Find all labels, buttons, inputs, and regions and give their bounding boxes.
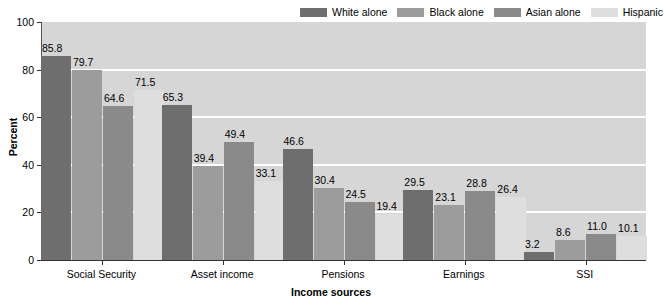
bar	[103, 106, 133, 260]
x-axis-tick-mark	[344, 261, 345, 265]
legend-item: Black alone	[397, 6, 483, 18]
x-axis-category-label: Pensions	[321, 268, 364, 280]
bar-value-label: 46.6	[284, 135, 322, 147]
legend-color-swatch	[591, 8, 618, 17]
x-axis-title: Income sources	[0, 286, 662, 298]
bar	[617, 236, 647, 260]
bar	[524, 252, 554, 260]
bar-value-label: 10.1	[618, 222, 656, 234]
bar-value-label: 24.5	[346, 188, 384, 200]
bar	[496, 197, 526, 260]
y-axis-tick-label: 100	[16, 16, 34, 28]
bar	[555, 240, 585, 260]
bar	[255, 181, 285, 260]
y-axis-tick-label: 60	[22, 111, 34, 123]
bar-value-label: 30.4	[315, 174, 353, 186]
x-axis-tick-mark	[102, 261, 103, 265]
bar	[465, 191, 495, 260]
bar-value-label: 29.5	[404, 176, 442, 188]
x-axis-category-label: Asset income	[191, 268, 254, 280]
gridline	[42, 69, 646, 71]
plot-area: 85.879.764.671.565.339.449.433.146.630.4…	[41, 22, 646, 261]
y-axis-tick-label: 20	[22, 206, 34, 218]
bar	[193, 166, 223, 260]
bar	[586, 234, 616, 260]
y-axis-tick-label: 40	[22, 159, 34, 171]
legend-label: Black alone	[429, 6, 483, 18]
bar	[134, 90, 164, 260]
bar-value-label: 71.5	[135, 76, 173, 88]
bar-value-label: 26.4	[497, 183, 535, 195]
bar	[434, 205, 464, 260]
bar	[376, 214, 406, 260]
bar-value-label: 49.4	[225, 128, 263, 140]
legend-label: Hispanic	[623, 6, 663, 18]
x-axis-tick-mark	[465, 261, 466, 265]
x-axis-tick-mark	[586, 261, 587, 265]
bar	[41, 56, 71, 260]
bar-value-label: 85.8	[42, 42, 80, 54]
x-axis-category-label: Earnings	[443, 268, 484, 280]
bar	[403, 190, 433, 260]
legend-color-swatch	[494, 8, 521, 17]
legend-label: Asian alone	[526, 6, 581, 18]
bar	[283, 149, 313, 260]
x-axis-category-label: Social Security	[67, 268, 136, 280]
x-axis-tick-mark	[223, 261, 224, 265]
chart-legend: White aloneBlack aloneAsian aloneHispani…	[300, 4, 668, 20]
legend-label: White alone	[332, 6, 387, 18]
y-axis-tick-label: 80	[22, 64, 34, 76]
legend-item: White alone	[300, 6, 387, 18]
bar	[224, 142, 254, 260]
bar	[345, 202, 375, 260]
legend-color-swatch	[300, 8, 327, 17]
legend-item: Hispanic	[591, 6, 663, 18]
legend-item: Asian alone	[494, 6, 581, 18]
bar-value-label: 79.7	[73, 56, 111, 68]
bar	[314, 188, 344, 260]
gridline	[42, 22, 646, 23]
legend-color-swatch	[397, 8, 424, 17]
x-axis-category-label: SSI	[576, 268, 593, 280]
y-axis-title: Percent	[7, 118, 19, 157]
bar-value-label: 65.3	[163, 91, 201, 103]
y-axis-tick-label: 0	[28, 254, 34, 266]
bar	[162, 105, 192, 260]
bar	[72, 70, 102, 260]
